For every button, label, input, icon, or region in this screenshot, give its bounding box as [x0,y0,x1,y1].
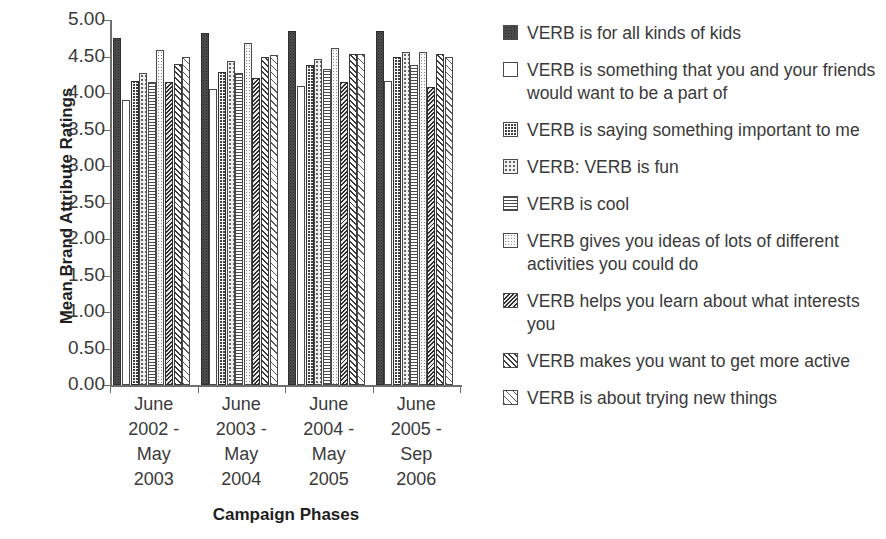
bar [331,48,339,385]
bar [252,78,260,385]
x-axis-tick-label-line: 2003 [108,467,200,492]
bar-group [376,20,453,385]
y-axis-tick-label: 3.50 [68,119,105,139]
x-axis-title: Campaign Phases [110,505,462,525]
x-axis-tick-label-line: 2004 [195,467,287,492]
bar [270,55,278,385]
legend-item[interactable]: VERB helps you learn about what interest… [503,290,878,336]
bar [376,31,384,385]
legend-item[interactable]: VERB is about trying new things [503,387,878,410]
legend-item[interactable]: VERB: VERB is fun [503,156,878,179]
legend-item-label: VERB helps you learn about what interest… [527,290,878,336]
bar-group [113,20,190,385]
x-axis-tick-label: June2002 -May2003 [108,392,200,492]
legend-swatch-icon [503,159,518,174]
bar [165,82,173,385]
y-axis-tick-label: 1.00 [68,301,105,321]
legend-item-label: VERB gives you ideas of lots of differen… [527,230,878,276]
bar [122,100,130,385]
bar [244,43,252,385]
legend-item-label: VERB is something that you and your frie… [527,59,878,105]
x-axis-tick-label-line: June [283,392,375,417]
x-axis-tick-label: June2003 -May2004 [195,392,287,492]
x-axis-tick-label-line: May [108,442,200,467]
legend-item[interactable]: VERB makes you want to get more active [503,350,878,373]
bar [174,64,182,385]
legend-item-label: VERB is cool [527,193,629,216]
x-axis-line [110,385,462,387]
bar [314,59,322,385]
bar-group [288,20,365,385]
bar [357,54,365,385]
bar [393,57,401,385]
y-axis-tick-label: 2.50 [68,192,105,212]
bar-group [201,20,278,385]
plot-area: 5.004.504.003.503.002.502.001.501.000.50… [110,20,460,385]
bar [201,33,209,385]
x-axis-tick-label-line: June [108,392,200,417]
bar [297,86,305,385]
y-axis-tick-label: 4.50 [68,46,105,66]
x-axis-tick-label-line: 2004 - [283,417,375,442]
y-axis-tick-label: 4.00 [68,82,105,102]
legend-swatch-icon [503,122,518,137]
x-axis-tick-label-line: May [283,442,375,467]
legend-swatch-icon [503,293,518,308]
legend-item-label: VERB makes you want to get more active [527,350,850,373]
x-axis-tick-label-line: June [370,392,462,417]
x-axis-tick-label-line: June [195,392,287,417]
bar [209,89,217,385]
bar [445,57,453,386]
y-axis-tick-label: 2.00 [68,228,105,248]
bar-chart-figure: Mean Brand Attribute Ratings 5.004.504.0… [0,0,886,539]
legend-swatch-icon [503,390,518,405]
bar [139,73,147,385]
y-axis-tick-label: 5.00 [68,9,105,29]
legend-item-label: VERB is about trying new things [527,387,777,410]
bar [148,82,156,385]
legend-swatch-icon [503,25,518,40]
bar [419,52,427,385]
x-axis-tick-label-line: Sep [370,442,462,467]
bar [436,54,444,385]
x-axis-tick-label-line: May [195,442,287,467]
legend-item[interactable]: VERB is for all kinds of kids [503,22,878,45]
y-axis-tick-label: 0.50 [68,338,105,358]
x-axis-tick-label-line: 2005 [283,467,375,492]
x-axis-tick-label-line: 2003 - [195,417,287,442]
bar [156,50,164,385]
bar [261,57,269,386]
x-axis-tick-label: June2005 -Sep2006 [370,392,462,492]
y-axis-tick-label: 1.50 [68,265,105,285]
legend-swatch-icon [503,62,518,77]
y-axis-tick-label: 0.00 [68,374,105,394]
x-axis-tick-label: June2004 -May2005 [283,392,375,492]
bar [306,65,314,385]
x-axis-tick-label-line: 2002 - [108,417,200,442]
bar [349,54,357,385]
bar [384,81,392,385]
legend-item-label: VERB: VERB is fun [527,156,679,179]
bar [323,69,331,385]
y-axis-tick-label: 3.00 [68,155,105,175]
legend-item[interactable]: VERB is cool [503,193,878,216]
legend-item[interactable]: VERB is saying something important to me [503,119,878,142]
bar [235,73,243,385]
bar [182,57,190,386]
bar [288,31,296,385]
x-axis-tick-label-line: 2006 [370,467,462,492]
bar [402,52,410,385]
bar [427,87,435,385]
legend-item-label: VERB is saying something important to me [527,119,860,142]
legend-item[interactable]: VERB is something that you and your frie… [503,59,878,105]
legend-swatch-icon [503,353,518,368]
legend-item[interactable]: VERB gives you ideas of lots of differen… [503,230,878,276]
legend-swatch-icon [503,233,518,248]
bar [227,61,235,385]
bar [410,65,418,385]
legend-swatch-icon [503,196,518,211]
bar [131,81,139,385]
chart-legend: VERB is for all kinds of kidsVERB is som… [503,22,878,424]
bar [340,82,348,385]
bar [113,38,121,385]
